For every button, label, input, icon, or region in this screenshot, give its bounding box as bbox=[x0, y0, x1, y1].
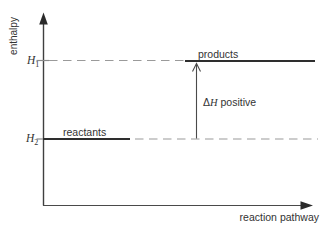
delta-h-annotation: ΔH positive bbox=[203, 96, 256, 109]
y-axis-label: enthalpy bbox=[7, 8, 21, 64]
products-label: products bbox=[198, 48, 238, 61]
y-axis-arrow-up-icon bbox=[39, 13, 48, 25]
enthalpy-diagram: enthalpy reaction pathway H1 H2 products… bbox=[0, 0, 324, 232]
delta-h-symbol: H bbox=[210, 97, 218, 108]
x-axis-arrow-right-icon bbox=[301, 201, 314, 209]
h1-subscript: 1 bbox=[35, 60, 39, 69]
delta-symbol: Δ bbox=[203, 96, 210, 108]
reactants-label: reactants bbox=[63, 126, 106, 139]
delta-h-text: positive bbox=[218, 96, 257, 108]
x-axis-label: reaction pathway bbox=[227, 211, 319, 224]
h2-label: H2 bbox=[26, 132, 38, 149]
h1-label: H1 bbox=[27, 54, 39, 71]
h2-subscript: 2 bbox=[34, 138, 38, 147]
diagram-canvas bbox=[0, 0, 324, 232]
